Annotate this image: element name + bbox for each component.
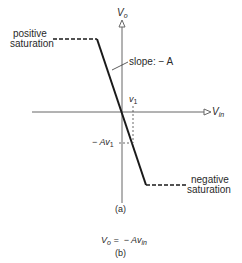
equation-rhs: = − Av: [111, 235, 142, 245]
slope-label: slope: − A: [129, 56, 173, 67]
vin-axis-arrow-icon: [204, 109, 211, 115]
equation: Vo = − Avin: [101, 235, 147, 248]
vin-subscript: in: [219, 111, 224, 118]
vo-axis-label: Vo: [117, 7, 128, 21]
neg-av1-label: − Av1: [92, 137, 114, 150]
caption-b: (b): [115, 248, 126, 259]
caption-a-text: (a): [115, 204, 126, 214]
slope-leader-line: [112, 62, 128, 70]
equation-rhs-subscript: in: [141, 239, 146, 246]
neg-av1-subscript: 1: [110, 141, 114, 148]
v1-subscript: 1: [134, 98, 138, 105]
vin-symbol: V: [212, 106, 219, 117]
negative-saturation-label: negative saturation: [187, 175, 231, 195]
v1-label: v1: [129, 94, 137, 107]
vo-subscript: o: [124, 12, 128, 19]
vo-axis-arrow-icon: [119, 20, 125, 27]
positive-saturation-label: positive saturation: [10, 29, 54, 49]
positive-saturation-text-2: saturation: [10, 39, 54, 49]
caption-b-text: (b): [115, 248, 126, 258]
neg-av1-symbol: − Av: [92, 137, 110, 147]
caption-a: (a): [115, 204, 126, 215]
vin-axis-label: Vin: [212, 106, 224, 120]
vo-symbol: V: [117, 7, 124, 18]
slope-text: slope: − A: [129, 56, 173, 67]
negative-saturation-text-2: saturation: [187, 185, 231, 195]
